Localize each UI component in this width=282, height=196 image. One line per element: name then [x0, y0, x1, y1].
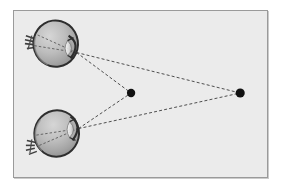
sight-line-upper-eye-to-near-point	[77, 53, 132, 94]
sight-line-lower-eye-to-far-point	[78, 93, 240, 129]
figure-page	[0, 0, 282, 196]
sight-line-upper-eye-to-far-point	[77, 53, 241, 94]
upper-eye	[25, 16, 82, 70]
upper-eye-vitreous	[31, 19, 79, 69]
far-fixation-point	[236, 88, 245, 97]
lower-eye-vitreous	[31, 107, 82, 159]
sight-lines	[77, 53, 241, 129]
binocular-convergence-diagram	[14, 11, 267, 177]
lower-eye	[26, 105, 85, 162]
near-fixation-point	[127, 89, 135, 97]
figure-frame	[13, 10, 268, 178]
